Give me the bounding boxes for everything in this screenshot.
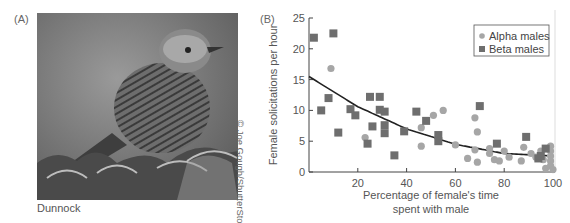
alpha-male-point bbox=[518, 157, 525, 164]
alpha-male-point bbox=[464, 155, 471, 162]
legend-label: Alpha males bbox=[489, 30, 550, 42]
legend-circle-icon bbox=[479, 33, 485, 39]
x-axis-label-line2: spent with male bbox=[393, 203, 469, 215]
y-tick-label: 15 bbox=[293, 74, 305, 86]
beta-male-point bbox=[390, 151, 398, 159]
x-tick-label: 60 bbox=[449, 177, 461, 189]
beta-male-point bbox=[434, 131, 442, 139]
x-axis-label-line1: Percentage of female's time bbox=[363, 189, 499, 201]
beta-male-point bbox=[368, 122, 376, 130]
beta-male-point bbox=[325, 94, 333, 102]
beta-male-point bbox=[493, 140, 501, 148]
y-axis-label: Female solicitations per hour bbox=[267, 24, 279, 165]
alpha-male-point bbox=[474, 128, 481, 135]
y-tick-label: 20 bbox=[293, 43, 305, 55]
y-tick-label: 5 bbox=[299, 135, 305, 147]
beta-male-point bbox=[351, 111, 359, 119]
alpha-male-point bbox=[471, 146, 478, 153]
beta-male-point bbox=[522, 133, 530, 141]
beta-male-point bbox=[412, 108, 420, 116]
alpha-male-point bbox=[452, 141, 459, 148]
beta-male-point bbox=[476, 102, 484, 110]
x-tick-label: 40 bbox=[400, 177, 412, 189]
beta-male-point bbox=[310, 34, 318, 42]
beta-male-point bbox=[537, 152, 545, 160]
beta-male-point bbox=[366, 93, 374, 101]
alpha-male-point bbox=[549, 166, 556, 173]
alpha-male-point bbox=[474, 159, 481, 166]
alpha-male-point bbox=[327, 65, 334, 72]
legend-label: Beta males bbox=[489, 43, 545, 55]
x-tick-label: 20 bbox=[352, 177, 364, 189]
x-tick-label: 80 bbox=[498, 177, 510, 189]
beta-male-point bbox=[381, 108, 389, 116]
alpha-male-point bbox=[440, 107, 447, 114]
alpha-male-point bbox=[418, 124, 425, 131]
alpha-male-point bbox=[486, 150, 493, 157]
beta-male-point bbox=[329, 29, 337, 37]
beta-male-point bbox=[542, 145, 550, 153]
alpha-male-point bbox=[430, 112, 437, 119]
beta-male-point bbox=[376, 93, 384, 101]
beta-male-point bbox=[381, 129, 389, 137]
beta-male-point bbox=[364, 140, 372, 148]
scatter-chart: 051015202520406080100 Alpha malesBeta ma… bbox=[0, 0, 570, 223]
legend-square-icon bbox=[479, 46, 485, 52]
alpha-male-point bbox=[496, 157, 503, 164]
alpha-male-point bbox=[520, 144, 527, 151]
y-tick-label: 0 bbox=[299, 166, 305, 178]
alpha-male-point bbox=[418, 143, 425, 150]
beta-male-point bbox=[317, 106, 325, 114]
alpha-male-point bbox=[501, 147, 508, 154]
beta-male-point bbox=[334, 129, 342, 137]
y-tick-label: 10 bbox=[293, 104, 305, 116]
x-tick-label: 100 bbox=[544, 177, 562, 189]
y-tick-label: 25 bbox=[293, 12, 305, 24]
alpha-male-point bbox=[505, 154, 512, 161]
beta-male-point bbox=[400, 127, 408, 135]
chart-legend: Alpha malesBeta males bbox=[474, 25, 550, 56]
alpha-male-point bbox=[471, 114, 478, 121]
beta-male-point bbox=[381, 121, 389, 129]
beta-male-point bbox=[422, 117, 430, 125]
